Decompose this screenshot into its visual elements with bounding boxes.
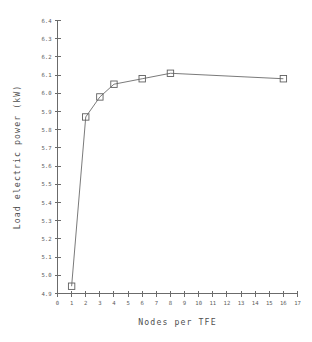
x-tick-label: 9 — [183, 300, 186, 306]
x-tick-label: 11 — [209, 300, 216, 306]
y-axis-title: Load electric power (kW) — [12, 85, 22, 230]
y-tick-label: 6.3 — [41, 36, 51, 42]
y-tick-label: 5.2 — [41, 236, 51, 242]
x-tick-label: 13 — [238, 300, 245, 306]
y-tick-label: 5.0 — [41, 272, 51, 278]
x-tick-label: 15 — [266, 300, 273, 306]
x-tick-label: 6 — [141, 300, 144, 306]
x-tick-label: 8 — [169, 300, 173, 306]
data-series-line — [72, 73, 284, 286]
x-tick-label: 16 — [280, 300, 287, 306]
y-tick-label: 5.4 — [41, 200, 52, 206]
data-point-markers — [68, 70, 286, 289]
y-tick-label: 4.9 — [41, 291, 51, 297]
y-tick-label: 6.1 — [41, 72, 51, 78]
x-axis-title: Nodes per TFE — [138, 317, 216, 327]
y-tick-label: 5.3 — [41, 218, 51, 224]
x-tick-label: 7 — [155, 300, 158, 306]
y-tick-label: 5.8 — [41, 127, 52, 133]
y-tick-label: 5.7 — [41, 145, 51, 151]
x-tick-label: 10 — [195, 300, 202, 306]
x-tick-label: 1 — [70, 300, 73, 306]
x-axis-tick-labels: 01234567891011121314151617 — [56, 300, 301, 306]
x-tick-label: 12 — [224, 300, 231, 306]
x-tick-label: 4 — [112, 300, 116, 306]
x-tick-label: 2 — [84, 300, 87, 306]
y-tick-label: 5.5 — [41, 181, 51, 187]
y-axis-tick-labels: 4.95.05.15.25.35.45.55.65.75.85.96.06.16… — [41, 18, 52, 297]
x-tick-label: 14 — [252, 300, 259, 306]
x-tick-label: 17 — [294, 300, 301, 306]
x-tick-label: 0 — [56, 300, 59, 306]
y-tick-label: 5.6 — [41, 163, 51, 169]
y-tick-label: 5.9 — [41, 109, 51, 115]
y-tick-label: 6.4 — [41, 18, 52, 24]
chart-figure: 4.95.05.15.25.35.45.55.65.75.85.96.06.16… — [0, 0, 312, 342]
y-tick-label: 5.1 — [41, 254, 51, 260]
x-tick-label: 3 — [98, 300, 101, 306]
y-tick-label: 6.2 — [41, 54, 51, 60]
y-tick-label: 6.0 — [41, 90, 51, 96]
x-tick-label: 5 — [126, 300, 129, 306]
chart-plot-area: 4.95.05.15.25.35.45.55.65.75.85.96.06.16… — [0, 0, 312, 342]
